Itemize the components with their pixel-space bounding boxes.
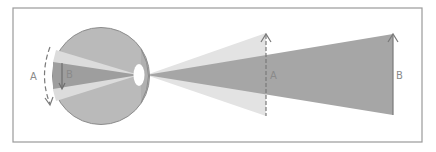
retina-label-b: B xyxy=(66,69,73,80)
object-label-a: A xyxy=(270,70,277,81)
lens xyxy=(134,64,145,86)
retina-label-a: A xyxy=(30,71,37,82)
object-label-b: B xyxy=(396,70,403,81)
eye-diagram: A B A B xyxy=(0,0,436,152)
